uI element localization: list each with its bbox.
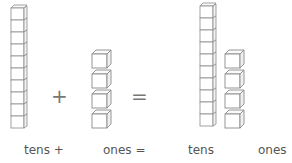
base-ten-diagram [0,0,292,163]
label-tens: tens [188,143,214,157]
right-tens-rod [200,3,216,126]
label-ones: ones [258,143,287,157]
label-tens-plus: tens + [24,143,64,157]
plus-sign: + [51,86,68,106]
left-ones-cubes [92,50,111,128]
right-ones-cubes [225,50,244,128]
equals-sign: = [131,86,148,106]
label-ones-equals: ones = [103,143,145,157]
left-tens-rod [11,5,27,128]
